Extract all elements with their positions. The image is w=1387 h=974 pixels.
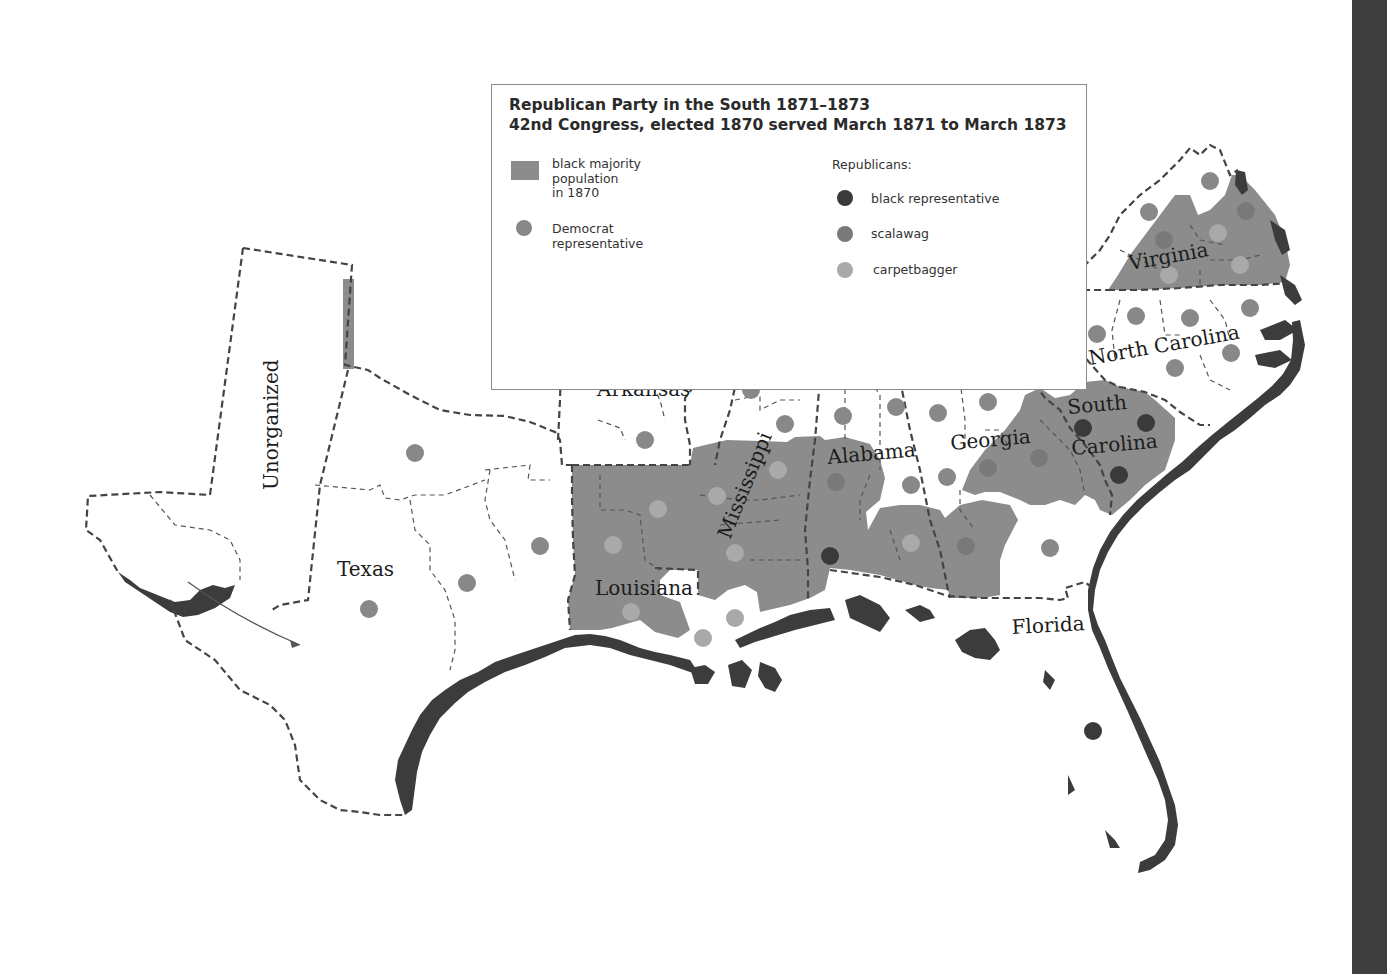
carpetbagger-dot-icon: [726, 544, 744, 562]
democrat-dot-icon: [531, 537, 549, 555]
coast-texas-gulf: [395, 634, 700, 815]
label-florida: Florida: [1011, 611, 1085, 639]
scalawag-dot-icon: [1237, 202, 1255, 220]
district-line: [485, 465, 550, 580]
democrat-dot-icon: [1222, 344, 1240, 362]
democrat-dot-icon: [938, 468, 956, 486]
carpetbagger-dot-icon: [622, 603, 640, 621]
democrat-dot-icon: [979, 393, 997, 411]
carpetbagger-dot-icon: [726, 609, 744, 627]
black-representative-dot-icon: [1110, 466, 1128, 484]
democrat-dot-icon: [1166, 359, 1184, 377]
black-representative-label: black representative: [871, 192, 999, 207]
label-louisiana: Louisiana: [595, 576, 693, 600]
democrat-dot-icon: [406, 444, 424, 462]
carpetbagger-dot-icon: [604, 536, 622, 554]
black-majority-label-line-3: in 1870: [552, 186, 641, 201]
scalawag-dot-icon: [979, 459, 997, 477]
scalawag-dot-icon: [827, 473, 845, 491]
black-representative-dot-icon: [1084, 722, 1102, 740]
democrat-dot-icon: [1241, 299, 1259, 317]
black-representative-dot-icon: [837, 190, 853, 206]
carpetbagger-dot-icon: [769, 461, 787, 479]
democrat-dot-icon: [360, 600, 378, 618]
carpetbagger-dot-icon: [649, 500, 667, 518]
democrat-dot-icon: [1181, 309, 1199, 327]
carpetbagger-dot-icon: [708, 487, 726, 505]
democrat-dot-icon: [902, 476, 920, 494]
district-line: [315, 480, 485, 500]
district-line: [410, 500, 455, 670]
democrat-dot-icon: [887, 398, 905, 416]
legend-title: Republican Party in the South 1871–1873 …: [509, 95, 1067, 135]
democrat-dot-icon: [834, 407, 852, 425]
carpetbagger-dot-icon: [1231, 256, 1249, 274]
scalawag-label: scalawag: [871, 227, 929, 242]
carpetbagger-dot-icon: [902, 534, 920, 552]
coast-florida-west: [1043, 670, 1120, 848]
scalawag-dot-icon: [1030, 449, 1048, 467]
coast-texas: [118, 572, 235, 617]
legend-title-line-2: 42nd Congress, elected 1870 served March…: [509, 115, 1067, 135]
black-majority-label-line-1: black majority: [552, 157, 641, 172]
black-majority-label-line-2: population: [552, 172, 641, 187]
carpetbagger-dot-icon: [1209, 224, 1227, 242]
district-line: [150, 495, 240, 580]
map-legend: Republican Party in the South 1871–1873 …: [491, 84, 1087, 390]
black-representative-dot-icon: [821, 547, 839, 565]
democrat-dot-icon: [458, 574, 476, 592]
democrat-dot-icon: [516, 220, 532, 236]
democrat-dot-icon: [1201, 172, 1219, 190]
scalawag-dot-icon: [957, 537, 975, 555]
label-unorganized: Unorganized: [259, 359, 283, 490]
black-majority-label: black majority population in 1870: [552, 157, 641, 201]
democrat-dot-icon: [776, 415, 794, 433]
carpetbagger-dot-icon: [837, 262, 853, 278]
coast-florida-panhandle: [845, 595, 1000, 660]
coast-mississippi-delta: [690, 608, 835, 692]
carpetbagger-dot-icon: [694, 629, 712, 647]
legend-title-line-1: Republican Party in the South 1871–1873: [509, 95, 1067, 115]
democrat-dot-icon: [929, 404, 947, 422]
democrat-dot-icon: [1088, 325, 1106, 343]
black-majority-swatch: [511, 161, 539, 180]
label-texas: Texas: [337, 557, 394, 581]
democrat-dot-icon: [636, 431, 654, 449]
democrat-label-line-1: Democrat: [552, 222, 643, 237]
democrat-dot-icon: [1041, 539, 1059, 557]
democrat-dot-icon: [1140, 203, 1158, 221]
democrat-label-line-2: representative: [552, 237, 643, 252]
scalawag-dot-icon: [837, 226, 853, 242]
democrat-dot-icon: [1127, 307, 1145, 325]
republicans-heading: Republicans:: [832, 158, 912, 173]
democrat-label: Democrat representative: [552, 222, 643, 251]
carpetbagger-label: carpetbagger: [873, 263, 958, 278]
